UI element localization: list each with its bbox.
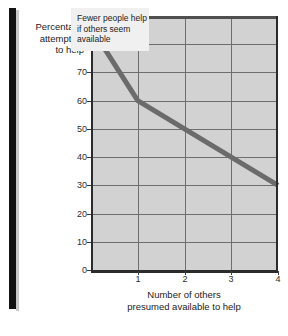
series-polyline (91, 27, 278, 185)
data-series-line (91, 16, 278, 270)
axis-right-border (276, 16, 278, 273)
chart-figure: Percentage attempting to help 0102030405… (0, 0, 288, 336)
annotation-line-3: available (77, 34, 143, 45)
axis-left-border (91, 16, 93, 273)
y-tick-label: 70 (59, 68, 87, 77)
x-tick-label: 3 (228, 274, 233, 284)
annotation-line-2: if others seem (77, 24, 143, 35)
x-axis-title-line-2: presumed available to help (96, 301, 272, 313)
annotation-callout: Fewer people help if others seem availab… (71, 8, 149, 51)
y-tick-label: 50 (59, 125, 87, 134)
x-tick-label: 2 (182, 274, 187, 284)
annotation-line-1: Fewer people help (77, 13, 143, 24)
y-tick-label: 0 (59, 266, 87, 275)
plot-wrapper (91, 16, 278, 270)
y-tick-label: 20 (59, 210, 87, 219)
x-tick-label: 4 (275, 274, 280, 284)
y-tick-label: 40 (59, 153, 87, 162)
y-tick-label: 60 (59, 97, 87, 106)
x-axis-title: Number of others presumed available to h… (96, 289, 272, 312)
x-axis-tick-labels: 1234 (91, 274, 278, 288)
x-tick-label: 1 (135, 274, 140, 284)
y-tick-label: 10 (59, 238, 87, 247)
y-axis-tick-labels: 0102030405060708090 (57, 16, 87, 270)
y-tick-label: 30 (59, 181, 87, 190)
x-axis-title-line-1: Number of others (96, 289, 272, 301)
